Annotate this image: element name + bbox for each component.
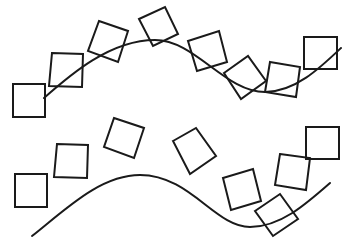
diagram-canvas xyxy=(0,0,348,248)
